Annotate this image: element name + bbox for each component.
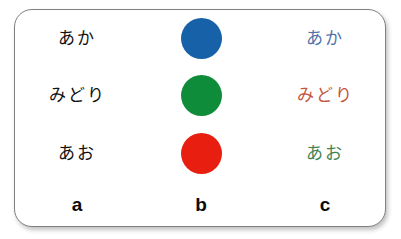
figure-root: あか あか みどり みどり あお — [0, 0, 401, 239]
column-label-a: a — [72, 195, 83, 214]
column-label-c: c — [320, 195, 331, 214]
cell-b-2 — [139, 67, 263, 124]
color-circle-red — [181, 133, 222, 174]
color-word-a-2: みどり — [49, 87, 106, 104]
cell-label-c: c — [263, 182, 387, 228]
cell-c-1: あか — [263, 10, 387, 67]
cell-b-1 — [139, 10, 263, 67]
color-word-a-3: あお — [58, 145, 96, 162]
column-label-b: b — [195, 195, 207, 214]
color-circle-blue — [181, 18, 222, 59]
color-word-c-2: みどり — [297, 87, 354, 104]
cell-label-b: b — [139, 182, 263, 228]
cell-c-2: みどり — [263, 67, 387, 124]
color-word-c-1: あか — [306, 30, 344, 47]
color-word-c-3: あお — [306, 145, 344, 162]
cell-a-2: みどり — [15, 67, 139, 124]
cell-b-3 — [139, 125, 263, 182]
cell-a-1: あか — [15, 10, 139, 67]
cell-a-3: あお — [15, 125, 139, 182]
cell-label-a: a — [15, 182, 139, 228]
columns-grid: あか あか みどり みどり あお — [15, 10, 387, 228]
color-circle-green — [181, 75, 222, 116]
color-word-a-1: あか — [58, 30, 96, 47]
cell-c-3: あお — [263, 125, 387, 182]
figure-card: あか あか みどり みどり あお — [14, 9, 386, 227]
